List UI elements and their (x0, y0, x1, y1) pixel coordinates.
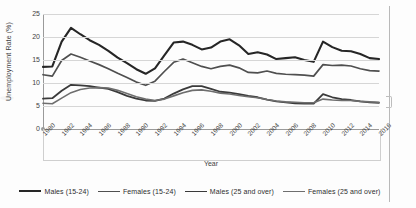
plot-area (43, 14, 379, 129)
line-chart: Unemployment Rate (%) 0510152025 1980198… (0, 0, 389, 175)
y-tick-label: 5 (18, 102, 40, 109)
x-tick-label: 2016 (377, 121, 392, 136)
chart-page: Unemployment Rate (%) 0510152025 1980198… (0, 0, 416, 208)
y-tick-label: 10 (18, 79, 40, 86)
series-line-1 (43, 54, 379, 85)
gridline (43, 106, 379, 107)
legend-label: Males (25 and over) (210, 188, 274, 195)
series-lines (43, 14, 379, 129)
legend-swatch-line-icon (98, 191, 120, 192)
legend-label: Males (15-24) (44, 188, 88, 195)
legend-item-3[interactable]: Females (25 and over) (283, 188, 381, 195)
y-tick-label: 20 (18, 33, 40, 40)
gridline (43, 14, 379, 15)
x-axis-ticks: 1980198219841986198819901992199419961998… (43, 130, 379, 160)
legend-label: Females (15-24) (123, 188, 176, 195)
legend-swatch-line-icon (283, 191, 305, 192)
legend-item-2[interactable]: Males (25 and over) (185, 188, 274, 195)
y-tick-label: 0 (18, 125, 40, 132)
legend-item-1[interactable]: Females (15-24) (98, 188, 176, 195)
legend-swatch-line-icon (19, 190, 41, 192)
x-axis-title: Year (43, 160, 379, 167)
series-line-0 (43, 28, 379, 74)
gridline (43, 83, 379, 84)
y-tick-label: 15 (18, 56, 40, 63)
gridline (43, 37, 379, 38)
gridline (43, 60, 379, 61)
legend-swatch-line-icon (185, 191, 207, 192)
legend-item-0[interactable]: Males (15-24) (19, 188, 88, 195)
y-tick-label: 25 (18, 10, 40, 17)
y-axis-ticks: 0510152025 (18, 0, 40, 175)
chart-legend: Males (15-24)Females (15-24)Males (25 an… (14, 184, 386, 198)
legend-label: Females (25 and over) (308, 188, 381, 195)
y-axis-title: Unemployment Rate (%) (5, 2, 12, 122)
